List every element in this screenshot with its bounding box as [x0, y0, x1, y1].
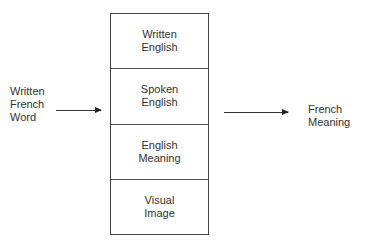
cell-line: Image [144, 207, 175, 220]
stack-cell-english-meaning: English Meaning [111, 125, 208, 180]
output-arrow [224, 112, 288, 113]
output-label-line: Meaning [308, 116, 350, 129]
output-label-french-meaning: French Meaning [308, 103, 350, 129]
input-label-line: French [10, 98, 45, 111]
input-label-line: Written [10, 85, 45, 98]
cell-line: Written [142, 28, 177, 41]
input-label-written-french-word: Written French Word [10, 85, 45, 124]
cell-line: English [141, 96, 177, 109]
stack-cell-spoken-english: Spoken English [111, 69, 208, 124]
stack-cell-visual-image: Visual Image [111, 180, 208, 234]
cell-line: Meaning [138, 152, 180, 165]
cell-line: Visual [145, 194, 175, 207]
input-label-line: Word [10, 111, 45, 124]
output-label-line: French [308, 103, 350, 116]
cell-line: Spoken [141, 83, 178, 96]
representation-stack: Written English Spoken English English M… [110, 13, 209, 235]
cell-line: English [141, 139, 177, 152]
input-arrow [56, 110, 101, 111]
cell-line: English [141, 41, 177, 54]
stack-cell-written-english: Written English [111, 14, 208, 69]
